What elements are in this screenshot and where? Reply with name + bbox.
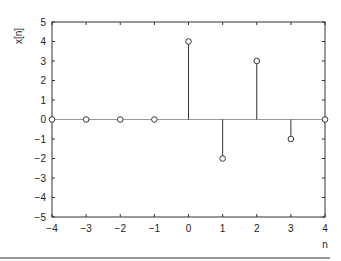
stem-marker — [322, 117, 328, 123]
y-tick-label: 3 — [40, 56, 46, 67]
x-tick-label: 3 — [288, 223, 294, 234]
y-tick-label: 1 — [40, 95, 46, 106]
x-tick-label: −3 — [80, 223, 92, 234]
stem-marker — [83, 117, 89, 123]
x-tick-label: 0 — [186, 223, 192, 234]
y-tick-label: −4 — [35, 192, 47, 203]
x-tick-label: −2 — [115, 223, 127, 234]
x-tick-label: 2 — [254, 223, 260, 234]
stem-marker — [254, 58, 260, 64]
y-tick-label: 4 — [40, 36, 46, 47]
x-tick-label: 1 — [220, 223, 226, 234]
y-tick-label: −1 — [35, 134, 47, 145]
stem-chart: −4−3−2−101234−5−4−3−2−1012345 x[n] n — [0, 0, 341, 261]
y-tick-label: −3 — [35, 173, 47, 184]
x-axis-label: n — [322, 239, 328, 250]
x-tick-label: −1 — [149, 223, 161, 234]
stem-marker — [288, 136, 294, 142]
y-tick-label: −2 — [35, 153, 47, 164]
stem-marker — [117, 117, 123, 123]
stem-marker — [49, 117, 55, 123]
y-axis-label: x[n] — [13, 28, 24, 44]
x-tick-label: 4 — [322, 223, 328, 234]
stem-marker — [220, 156, 226, 162]
y-tick-label: 5 — [40, 17, 46, 28]
plot-area: −4−3−2−101234−5−4−3−2−1012345 — [35, 17, 329, 235]
y-tick-label: 2 — [40, 75, 46, 86]
y-tick-label: −5 — [35, 212, 47, 223]
x-tick-label: −4 — [46, 223, 58, 234]
stem-marker — [152, 117, 158, 123]
y-tick-label: 0 — [40, 114, 46, 125]
stem-marker — [186, 39, 192, 45]
